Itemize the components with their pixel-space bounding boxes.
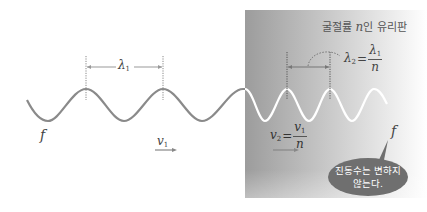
- refraction-diagram: 굴절률 n인 유리판 λ1 λ2=λ1n f v1 v2=v1n f 진동수는 …: [0, 0, 427, 212]
- lambda1-label: λ1: [118, 59, 130, 73]
- lambda2-den: n: [368, 60, 382, 73]
- lambda2-symbol: λ: [344, 51, 352, 65]
- lambda2-num-sub: 1: [377, 50, 381, 58]
- frequency-right-label: f: [391, 124, 396, 138]
- lambda2-label: λ2=λ1n: [344, 44, 382, 73]
- lambda1-symbol: λ: [118, 58, 126, 72]
- v2-symbol: v: [270, 128, 277, 142]
- lambda2-eq: =: [357, 52, 367, 66]
- bubble-line2: 않는다.: [328, 177, 408, 190]
- v2-den: n: [293, 137, 306, 150]
- v2-eq: =: [282, 129, 292, 143]
- v2-label: v2=v1n: [270, 121, 307, 150]
- medium-label-suffix: 인 유리판: [363, 21, 407, 34]
- wave-air: [27, 89, 245, 121]
- v2-sub: 2: [277, 135, 281, 143]
- speech-bubble-text: 진동수는 변하지 않는다.: [328, 164, 408, 190]
- lambda2-num-symbol: λ: [369, 43, 377, 57]
- lambda2-sub: 2: [352, 58, 356, 66]
- v2-num-sub: 1: [301, 127, 305, 135]
- v1-label: v1: [157, 135, 168, 149]
- frequency-left-label: f: [40, 128, 45, 142]
- v1-symbol: v: [157, 134, 164, 148]
- bubble-line1: 진동수는 변하지: [328, 164, 408, 177]
- medium-label-prefix: 굴절률: [322, 21, 356, 34]
- v1-sub: 1: [164, 141, 168, 149]
- medium-label: 굴절률 n인 유리판: [322, 21, 407, 33]
- lambda1-sub: 1: [126, 65, 130, 73]
